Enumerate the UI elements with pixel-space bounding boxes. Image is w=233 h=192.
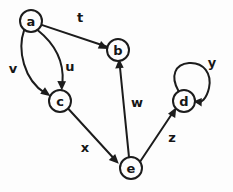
edge-z[interactable]: z (140, 107, 176, 162)
node-label-b: b (113, 43, 122, 58)
node-c[interactable]: c (49, 90, 71, 112)
node-label-e: e (127, 161, 136, 176)
edge-label-w: w (131, 95, 143, 110)
edge-u-arrowhead (57, 81, 66, 91)
node-label-d: d (179, 94, 188, 109)
node-d[interactable]: d (173, 90, 195, 112)
edge-u[interactable]: u (38, 30, 75, 91)
edge-w[interactable]: w (115, 59, 143, 157)
edge-label-z: z (168, 130, 176, 145)
node-label-c: c (56, 94, 64, 109)
edge-w-line (120, 64, 129, 158)
node-a[interactable]: a (20, 10, 42, 32)
graph-svg: t v u w x z (0, 0, 233, 192)
edge-label-t: t (77, 10, 83, 25)
edge-x[interactable]: x (68, 109, 119, 164)
node-e[interactable]: e (120, 157, 142, 179)
edge-v[interactable]: v (9, 30, 51, 96)
edge-label-x: x (81, 140, 90, 155)
edge-label-y: y (208, 55, 217, 70)
graph-canvas: t v u w x z (0, 0, 233, 192)
edge-u-curve (38, 30, 63, 82)
node-label-a: a (27, 14, 36, 29)
edge-label-u: u (65, 59, 74, 74)
node-b[interactable]: b (107, 39, 129, 61)
edge-v-curve (21, 30, 45, 93)
edge-x-line (68, 109, 115, 160)
edge-v-arrowhead (40, 87, 50, 96)
edge-label-v: v (9, 61, 18, 76)
